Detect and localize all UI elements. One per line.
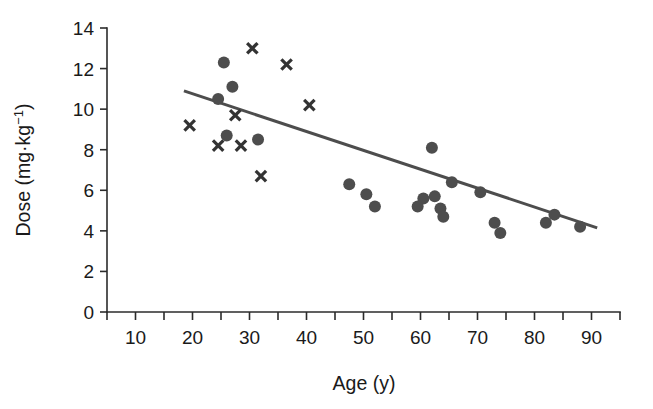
data-point-cross (256, 171, 266, 181)
y-axis-title-base: Dose (mg·kg (12, 125, 34, 237)
data-point-cross (184, 120, 194, 130)
data-point-circle (426, 142, 438, 154)
data-point-circle (343, 178, 355, 190)
x-tick-label-30: 30 (239, 327, 260, 348)
data-point-circle (369, 201, 381, 213)
data-point-circle (218, 56, 230, 68)
y-axis-title-close: ) (12, 104, 34, 111)
data-point-circle (574, 221, 586, 233)
x-axis-title: Age (y) (333, 372, 396, 394)
regression-line-segment (184, 91, 597, 228)
data-point-circle (548, 209, 560, 221)
x-tick-label-50: 50 (353, 327, 374, 348)
x-tick-label-10: 10 (125, 327, 146, 348)
x-axis-title-text: Age (y) (333, 372, 396, 394)
x-tick-label-20: 20 (182, 327, 203, 348)
plot-canvas: 02468101214 102030405060708090 Age (y) D… (0, 0, 653, 409)
y-tick-label-10: 10 (73, 99, 94, 120)
x-tick-label-40: 40 (296, 327, 317, 348)
data-point-circle (226, 81, 238, 93)
y-axis-title-exponent: −1 (11, 110, 26, 125)
y-tick-label-2: 2 (83, 261, 94, 282)
data-point-circle (412, 201, 424, 213)
x-tick-label-70: 70 (467, 327, 488, 348)
data-point-circle (437, 211, 449, 223)
circle-markers (212, 56, 586, 238)
y-tick-label-4: 4 (83, 221, 94, 242)
x-tick-label-90: 90 (581, 327, 602, 348)
data-point-circle (212, 93, 224, 105)
data-point-circle (429, 190, 441, 202)
data-point-cross (281, 59, 291, 69)
data-point-cross (236, 140, 246, 150)
y-tick-label-0: 0 (83, 302, 94, 323)
data-point-circle (446, 176, 458, 188)
x-tick-label-60: 60 (410, 327, 431, 348)
y-tick-label-6: 6 (83, 180, 94, 201)
data-point-circle (489, 217, 501, 229)
y-tick-label-8: 8 (83, 140, 94, 161)
data-point-cross (213, 140, 223, 150)
x-tick-label-80: 80 (524, 327, 545, 348)
data-point-circle (494, 227, 506, 239)
data-point-circle (252, 134, 264, 146)
y-axis-tick-labels: 02468101214 (73, 18, 95, 323)
x-axis-ticks (107, 312, 620, 320)
scatter-plot-figure: 02468101214 102030405060708090 Age (y) D… (0, 0, 653, 409)
regression-line (184, 91, 597, 228)
y-axis-title: Dose (mg·kg−1) (11, 104, 34, 237)
data-point-cross (230, 110, 240, 120)
data-point-cross (304, 100, 314, 110)
y-axis-title-text: Dose (mg·kg−1) (11, 104, 34, 237)
axes (107, 28, 620, 312)
y-tick-label-14: 14 (73, 18, 95, 39)
y-axis-ticks (100, 28, 107, 312)
data-point-cross (247, 43, 257, 53)
data-point-circle (221, 130, 233, 142)
y-tick-label-12: 12 (73, 59, 94, 80)
data-point-circle (474, 186, 486, 198)
data-point-circle (360, 188, 372, 200)
x-axis-tick-labels: 102030405060708090 (125, 327, 602, 348)
